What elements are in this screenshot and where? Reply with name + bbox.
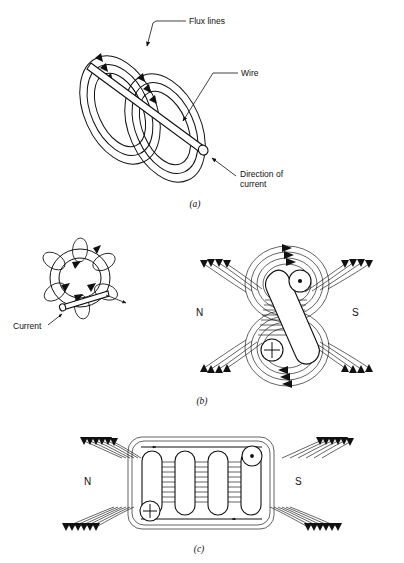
panel-a-caption: (a) — [189, 199, 200, 210]
solenoid-interior-hatch — [161, 462, 243, 502]
panel-b-south-pole-label: S — [352, 307, 359, 318]
panel-b-loop-sketch: Current — [13, 238, 126, 331]
flux-rings-around-loop — [40, 238, 120, 320]
current-label-group: Current — [13, 314, 62, 331]
direction-of-current-label-line2: current — [240, 179, 267, 189]
current-into-page-symbol — [261, 339, 283, 361]
wire-rod — [87, 63, 210, 157]
wire-label-group: Wire — [183, 68, 259, 121]
coil-turn — [208, 451, 228, 515]
solenoid-current-in-symbol — [140, 501, 160, 521]
direction-of-current-label: Direction of — [240, 169, 284, 179]
panel-b-caption: (b) — [196, 396, 207, 407]
solenoid-current-out-symbol — [242, 446, 262, 466]
solenoid-field-right-top — [282, 441, 350, 458]
panel-b-north-pole-label: N — [196, 307, 203, 318]
current-label: Current — [13, 321, 42, 331]
panel-a: Flux lines Wire Direction of current (a) — [64, 16, 284, 210]
wire-label: Wire — [241, 68, 259, 78]
magnetic-flux-figure: Flux lines Wire Direction of current (a) — [0, 0, 404, 563]
figure-canvas: Flux lines Wire Direction of current (a) — [0, 0, 404, 563]
field-lines-left — [204, 263, 262, 369]
flux-lines-label-group: Flux lines — [147, 16, 225, 46]
panel-b-field: N S (b) — [196, 244, 373, 407]
current-out-of-page-symbol — [289, 270, 311, 292]
panel-c: N S (c) — [62, 437, 354, 555]
coil-turn — [175, 451, 195, 515]
panel-c-caption: (c) — [194, 544, 205, 555]
direction-of-current-label-group: Direction of current — [212, 158, 284, 189]
flux-lines-label: Flux lines — [189, 16, 225, 26]
panel-c-north-pole-label: N — [84, 476, 91, 487]
panel-c-south-pole-label: S — [295, 476, 302, 487]
